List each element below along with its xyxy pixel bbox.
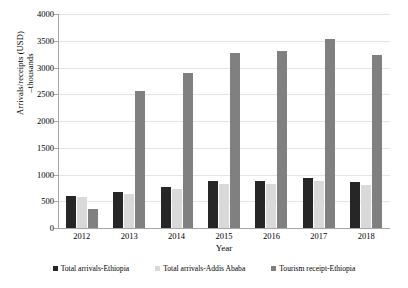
bar-group [295, 14, 342, 228]
bar-group [105, 14, 152, 228]
legend-item: Total arrivals-Addis Ababa [155, 264, 245, 273]
y-axis-tick-label: 0 [4, 224, 54, 233]
legend-label: Tourism receipt-Ethiopia [279, 264, 355, 273]
bar-groups [58, 14, 390, 228]
y-axis-tick-label: 1500 [4, 144, 54, 153]
bar [161, 187, 171, 228]
y-axis-tick-label: 2500 [4, 90, 54, 99]
x-axis-tick-label: 2013 [105, 231, 152, 242]
legend-item: Tourism receipt-Ethiopia [271, 264, 355, 273]
bar [77, 197, 87, 228]
bar [255, 181, 265, 228]
bar [124, 194, 134, 228]
bar [172, 189, 182, 228]
x-axis-tick-label: 2015 [200, 231, 247, 242]
bar [219, 184, 229, 228]
x-axis-tick-label: 2014 [153, 231, 200, 242]
y-axis-tick-label: 4000 [4, 10, 54, 19]
bar-group [200, 14, 247, 228]
legend-swatch-icon [155, 266, 160, 271]
y-axis-tick-label: 1000 [4, 171, 54, 180]
legend-label: Total arrivals-Addis Ababa [163, 264, 245, 273]
bar [325, 39, 335, 228]
bar [350, 182, 360, 228]
bar-group [343, 14, 390, 228]
bar [277, 51, 287, 228]
bar-group [58, 14, 105, 228]
bar [230, 53, 240, 228]
bar [88, 209, 98, 228]
bar [183, 73, 193, 228]
bar [113, 192, 123, 228]
y-axis-ticks: 05001000150020002500300035004000 [0, 14, 54, 228]
y-axis-tick-label: 3000 [4, 64, 54, 73]
x-axis-title: Year [58, 243, 390, 253]
bar [361, 185, 371, 228]
bar [208, 181, 218, 228]
x-axis-tick-label: 2016 [248, 231, 295, 242]
bar [314, 181, 324, 228]
x-axis-tick-label: 2018 [343, 231, 390, 242]
y-axis-tick-label: 3500 [4, 37, 54, 46]
legend-swatch-icon [53, 266, 58, 271]
chart-legend: Total arrivals-EthiopiaTotal arrivals-Ad… [0, 264, 408, 273]
bar-group [248, 14, 295, 228]
y-axis-tick-label: 2000 [4, 117, 54, 126]
x-axis-tick-labels: 2012201320142015201620172018 [58, 231, 390, 242]
bar [372, 55, 382, 228]
bar-chart: Arrivals/receipts (USD) –thousands 05001… [0, 0, 408, 288]
bar [66, 196, 76, 228]
legend-label: Total arrivals-Ethiopia [61, 264, 129, 273]
x-axis-tick-label: 2017 [295, 231, 342, 242]
bar [303, 178, 313, 228]
bar [135, 91, 145, 228]
legend-item: Total arrivals-Ethiopia [53, 264, 129, 273]
y-axis-tick-label: 500 [4, 197, 54, 206]
x-axis-line [58, 228, 390, 229]
bar [266, 184, 276, 228]
bar-group [153, 14, 200, 228]
legend-swatch-icon [271, 266, 276, 271]
x-axis-tick-label: 2012 [58, 231, 105, 242]
